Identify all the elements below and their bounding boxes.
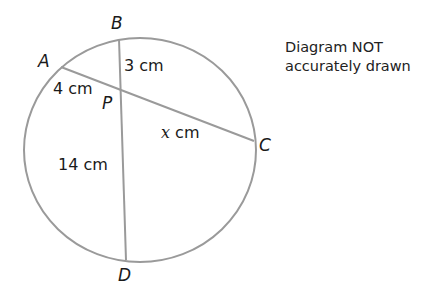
point-p-label: P bbox=[102, 94, 112, 112]
variable-x: x bbox=[161, 123, 170, 142]
point-a-label: A bbox=[38, 52, 50, 70]
point-b-label: B bbox=[111, 14, 123, 32]
diagram-note: Diagram NOT accurately drawn bbox=[285, 38, 411, 76]
length-pd-label: 14 cm bbox=[58, 156, 108, 174]
point-c-label: C bbox=[259, 136, 271, 154]
note-line-2: accurately drawn bbox=[285, 57, 411, 76]
length-pc-unit: cm bbox=[170, 123, 199, 142]
length-bp-label: 3 cm bbox=[124, 57, 164, 75]
length-ap-label: 4 cm bbox=[53, 80, 93, 98]
point-d-label: D bbox=[118, 266, 131, 284]
note-line-1: Diagram NOT bbox=[285, 38, 411, 57]
length-pc-label: x cm bbox=[161, 124, 200, 142]
